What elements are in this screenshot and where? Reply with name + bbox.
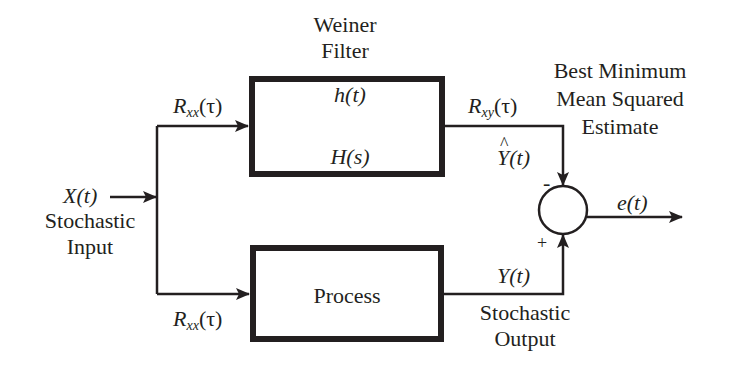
subscript: xx (186, 105, 198, 120)
impulse-response-label: h(t) (300, 82, 400, 108)
caption-line3: Estimate (540, 113, 700, 141)
estimate-caption: Best Minimum Mean Squared Estimate (540, 57, 700, 141)
input-desc-line1: Stochastic (30, 208, 150, 234)
estimate-label: Y(t) (497, 145, 530, 171)
subscript: xy (481, 105, 493, 120)
filter-title-line1: Weiner (290, 12, 400, 38)
error-signal-label: e(t) (617, 190, 648, 216)
argument: (τ) (199, 306, 223, 331)
crosscorrelation-label: Rxy(τ) (468, 93, 517, 126)
caption-line1: Best Minimum (540, 57, 700, 85)
r-symbol: R (173, 306, 186, 331)
subscript: xx (186, 318, 198, 333)
process-label: Process (253, 283, 441, 309)
filter-title: Weiner Filter (290, 12, 400, 64)
transfer-function-label: H(s) (300, 144, 400, 170)
r-symbol: R (468, 93, 481, 118)
y-hat-symbol: Y (497, 145, 509, 171)
minus-sign: - (543, 170, 550, 196)
argument: (τ) (494, 93, 518, 118)
bottom-autocorrelation-label: Rxx(τ) (173, 306, 222, 339)
input-signal-label: X(t) (63, 183, 97, 209)
output-desc-line1: Stochastic (460, 300, 590, 326)
output-desc-line2: Output (460, 326, 590, 352)
filter-title-line2: Filter (290, 38, 400, 64)
argument: (t) (509, 145, 530, 170)
argument: (τ) (199, 93, 223, 118)
caption-line2: Mean Squared (540, 85, 700, 113)
output-description: Stochastic Output (460, 300, 590, 352)
input-desc-line2: Input (30, 234, 150, 260)
plus-sign: + (537, 230, 547, 256)
r-symbol: R (173, 93, 186, 118)
process-output-signal-label: Y(t) (497, 263, 530, 289)
input-description: Stochastic Input (30, 208, 150, 260)
top-autocorrelation-label: Rxx(τ) (173, 93, 222, 126)
